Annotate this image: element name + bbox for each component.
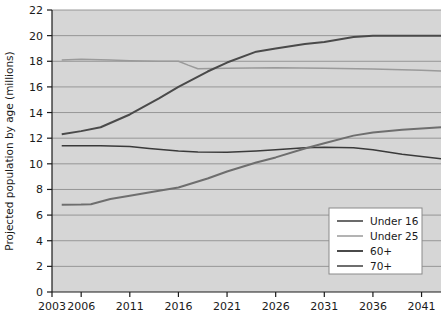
legend-label-under-25: Under 25 — [370, 230, 418, 242]
y-axis-tick-label: 12 — [29, 132, 43, 145]
y-axis-tick-label: 10 — [29, 158, 43, 171]
y-axis-tick-label: 4 — [36, 235, 43, 248]
y-axis-tick-label: 0 — [36, 286, 43, 299]
legend-label-70: 70+ — [370, 260, 392, 272]
x-axis-tick-label: 2003 — [38, 300, 66, 313]
projected-population-line-chart: 0246810121416182022 20032006201120162021… — [0, 0, 441, 322]
y-axis: 0246810121416182022 — [29, 4, 52, 299]
x-axis: 200320062011201620212026203120362041 — [38, 292, 441, 313]
y-axis-title: Projected population by age (millions) — [3, 51, 15, 250]
x-axis-tick-label: 2006 — [67, 300, 95, 313]
chart-legend: Under 16Under 2560+70+ — [329, 208, 422, 274]
y-axis-tick-label: 18 — [29, 55, 43, 68]
x-axis-tick-label: 2041 — [408, 300, 436, 313]
x-axis-tick-label: 2011 — [116, 300, 144, 313]
y-axis-tick-label: 16 — [29, 81, 43, 94]
y-axis-title-text: Projected population by age (millions) — [3, 51, 15, 250]
y-axis-tick-label: 14 — [29, 107, 43, 120]
x-axis-tick-label: 2021 — [213, 300, 241, 313]
chart-figure: 0246810121416182022 20032006201120162021… — [0, 0, 441, 322]
y-axis-tick-label: 20 — [29, 30, 43, 43]
y-axis-tick-label: 22 — [29, 4, 43, 17]
legend-label-60: 60+ — [370, 245, 392, 257]
x-axis-tick-label: 2026 — [262, 300, 290, 313]
y-axis-tick-label: 2 — [36, 260, 43, 273]
x-axis-tick-label: 2016 — [164, 300, 192, 313]
y-axis-tick-label: 6 — [36, 209, 43, 222]
y-axis-tick-label: 8 — [36, 183, 43, 196]
x-axis-tick-label: 2031 — [310, 300, 338, 313]
legend-label-under-16: Under 16 — [370, 215, 419, 227]
x-axis-tick-label: 2036 — [359, 300, 387, 313]
